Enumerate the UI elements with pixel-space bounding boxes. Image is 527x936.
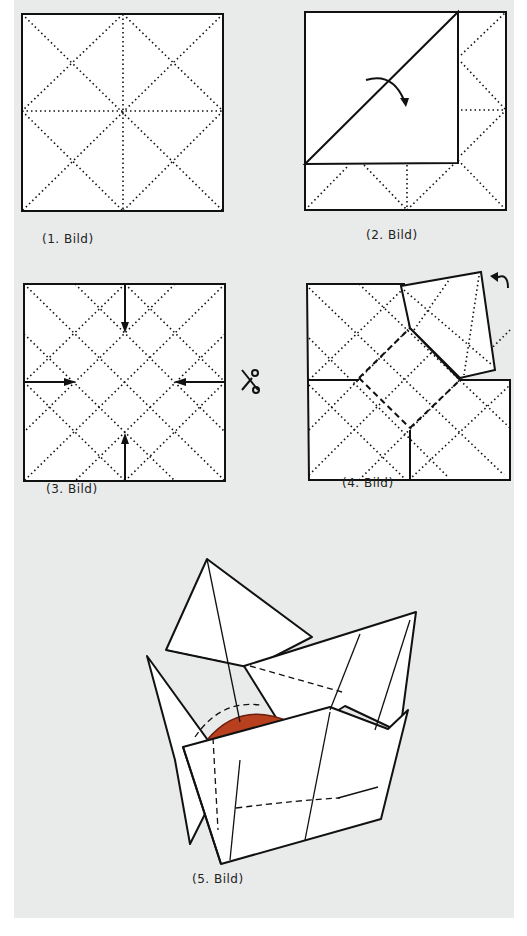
finished-basket-illustration (0, 500, 527, 920)
figure-2-caption: (2. Bild) (366, 228, 418, 242)
figure-3: (3. Bild) (0, 260, 264, 500)
folded-corner-diagram (264, 0, 527, 260)
figure-4: (4. Bild) (264, 260, 527, 500)
figure-5: (5. Bild) (0, 500, 527, 920)
page-margin (0, 918, 527, 936)
square-crease-pattern (0, 0, 264, 260)
figure-1-caption: (1. Bild) (42, 232, 94, 246)
figure-5-caption: (5. Bild) (192, 872, 244, 886)
figure-3-caption: (3. Bild) (46, 482, 98, 496)
figure-2: (2. Bild) (264, 0, 527, 260)
curved-arrow-icon (490, 272, 498, 282)
cut-sheet-diagram (264, 260, 527, 500)
figure-1: (1. Bild) (0, 0, 264, 260)
diamond-grid-diagram (0, 260, 264, 500)
scissors-icon (242, 370, 259, 393)
figure-4-caption: (4. Bild) (342, 476, 394, 490)
